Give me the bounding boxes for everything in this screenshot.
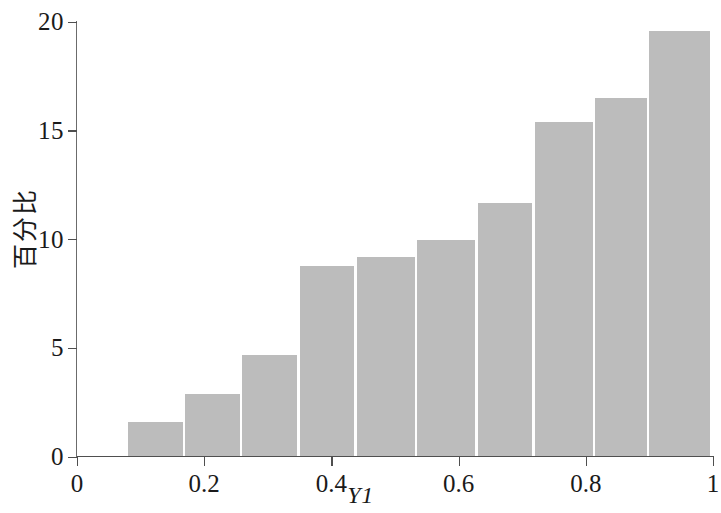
bar: [535, 122, 593, 457]
y-axis-tick-mark: [68, 457, 77, 458]
y-axis-tick-mark: [68, 130, 77, 131]
bar: [185, 394, 240, 457]
y-axis-tick-label: 20: [4, 9, 64, 34]
bar: [242, 355, 297, 457]
y-axis-title: 百分比: [13, 168, 39, 288]
y-axis-tick-mark: [68, 348, 77, 349]
x-axis-tick-mark: [459, 457, 460, 466]
x-axis-tick-mark: [331, 457, 332, 466]
bar: [128, 422, 183, 457]
bar: [595, 98, 647, 457]
x-axis-line: [77, 456, 714, 457]
x-axis-title: Y1: [0, 482, 721, 509]
x-axis-tick-mark: [713, 457, 714, 466]
y-axis-tick-label: 5: [4, 335, 64, 360]
x-axis-title-text: Y1: [347, 482, 373, 508]
y-axis-tick-mark: [68, 239, 77, 240]
y-axis-tick-label: 0: [4, 444, 64, 469]
bar: [478, 203, 533, 457]
x-axis-tick-mark: [586, 457, 587, 466]
plot-area: [77, 22, 713, 457]
x-axis-tick-mark: [204, 457, 205, 466]
bar: [417, 240, 475, 458]
x-axis-tick-mark: [77, 457, 78, 466]
bar: [300, 266, 355, 457]
bar-chart: 05101520 00.20.40.60.81 百分比 Y1: [0, 0, 721, 513]
bar: [649, 31, 710, 457]
y-axis-tick-mark: [68, 22, 77, 23]
y-axis-tick-label: 15: [4, 118, 64, 143]
bar: [357, 257, 415, 457]
